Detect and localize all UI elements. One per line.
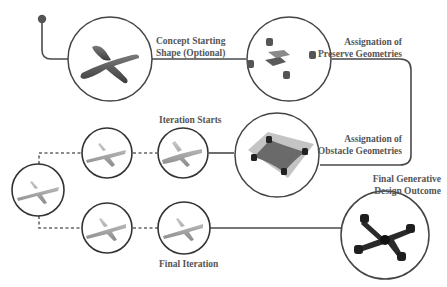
concept-circle bbox=[68, 17, 152, 101]
obstacle-label: Assignation of Obstacle Geometries bbox=[318, 134, 402, 157]
final-outcome-circle bbox=[341, 191, 429, 279]
iteration-circle-left bbox=[12, 164, 64, 216]
obstacle-circle bbox=[235, 113, 319, 197]
start-dot bbox=[38, 15, 46, 23]
iteration-circle-top-2 bbox=[158, 128, 208, 178]
final-iteration-label: Final Iteration bbox=[159, 259, 218, 271]
concept-label: Concept Starting Shape (Optional) bbox=[156, 36, 225, 59]
iteration-starts-label: Iteration Starts bbox=[159, 115, 222, 127]
final-outcome-label: Final Generative Design Outcome bbox=[373, 174, 441, 197]
start-connector bbox=[42, 19, 68, 59]
iteration-circle-bottom-2 bbox=[158, 202, 210, 254]
preserve-label: Assignation of Preserve Geometries bbox=[318, 37, 402, 60]
iteration-circle-top-1 bbox=[82, 128, 132, 178]
iteration-circle-bottom-1 bbox=[82, 203, 132, 253]
